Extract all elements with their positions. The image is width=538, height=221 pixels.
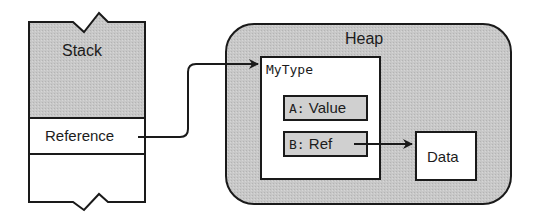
field-a: A: Value [289, 99, 346, 116]
field-b: B: Ref [289, 135, 332, 152]
data-label: Data [427, 148, 459, 165]
field-b-key: B: [289, 137, 305, 152]
stack-reference-label: Reference [45, 127, 114, 144]
field-b-value: Ref [309, 135, 332, 152]
heap-title: Heap [345, 30, 383, 48]
field-a-value: Value [309, 99, 346, 116]
field-a-key: A: [289, 101, 305, 116]
stack-bottom-region [29, 154, 145, 210]
stack-title: Stack [62, 42, 102, 60]
mytype-label: MyType [266, 62, 313, 77]
diagram-canvas [0, 0, 538, 221]
stack-shaded-region [29, 13, 145, 118]
